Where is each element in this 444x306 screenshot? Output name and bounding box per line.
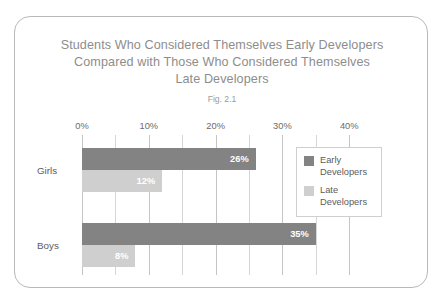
- chart-legend: Early Developers Late Developers: [296, 147, 382, 217]
- legend-swatch-late-developers: [304, 186, 314, 196]
- bar-value-label: 8%: [115, 251, 128, 261]
- bar-value-label: 12%: [137, 176, 156, 186]
- x-axis-tick-label: 40%: [340, 121, 359, 131]
- bar-girls-late: 12%: [82, 170, 162, 192]
- x-axis-tick-label: 10%: [139, 121, 158, 131]
- bar-value-label: 26%: [230, 154, 249, 164]
- gridline-major: [282, 135, 283, 275]
- x-axis-tick-label: 30%: [273, 121, 292, 131]
- category-label-girls: Girls: [37, 165, 57, 176]
- legend-item-late-developers: Late Developers: [304, 185, 375, 208]
- x-axis-tick-label: 20%: [206, 121, 225, 131]
- bar-girls-early: 26%: [82, 148, 256, 170]
- legend-swatch-early-developers: [304, 156, 314, 166]
- legend-label-early-developers: Early Developers: [320, 155, 375, 178]
- legend-label-late-developers: Late Developers: [320, 185, 375, 208]
- bar-boys-early: 35%: [82, 223, 316, 245]
- category-label-boys: Boys: [37, 240, 59, 251]
- bar-value-label: 35%: [290, 229, 309, 239]
- x-axis-tick-label: 0%: [75, 121, 88, 131]
- legend-item-early-developers: Early Developers: [304, 155, 375, 178]
- bar-boys-late: 8%: [82, 245, 135, 267]
- figure-frame: Students Who Considered Themselves Early…: [14, 16, 428, 288]
